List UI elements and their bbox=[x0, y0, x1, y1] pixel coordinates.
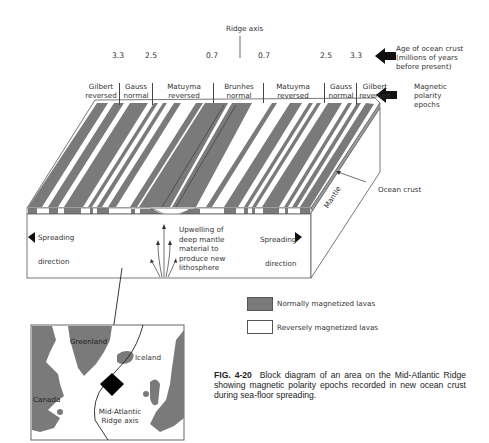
age-legend-arrow-icon bbox=[375, 48, 396, 64]
map-label-ridge-axis: Mid-Atlantic Ridge axis bbox=[90, 407, 150, 425]
epoch-divider bbox=[263, 83, 264, 103]
epoch-label-matuyma-left: Matuymareversed bbox=[155, 82, 213, 100]
legend-normal-label: Normally magnetized lavas bbox=[277, 299, 375, 308]
figure-number: FIG. 4-20 bbox=[214, 370, 252, 380]
map-label-greenland: Greenland bbox=[70, 337, 107, 346]
map-label-canada: Canada bbox=[33, 395, 60, 404]
spreading-right-label-1: Spreading bbox=[260, 235, 296, 244]
spreading-left-label-1: Spreading bbox=[38, 233, 74, 242]
epoch-label-gauss-left: Gaussnormal bbox=[120, 82, 152, 100]
upwelling-label: Upwelling of deep mantle material to pro… bbox=[179, 225, 225, 273]
age-left-1: 3.3 bbox=[112, 51, 124, 60]
age-left-3: 0.7 bbox=[206, 51, 218, 60]
epoch-label-brunhes: Brunhesnormal bbox=[214, 82, 264, 100]
age-right-3: 3.3 bbox=[350, 51, 362, 60]
ocean-crust-label: Ocean crust bbox=[378, 185, 421, 194]
epoch-label-gilbert-right: Gilbertreversed bbox=[357, 82, 393, 100]
legend-reverse-swatch bbox=[247, 320, 273, 334]
figure-caption: FIG. 4-20 Block diagram of an area on th… bbox=[214, 370, 466, 401]
age-right-1: 0.7 bbox=[258, 51, 270, 60]
age-right-2: 2.5 bbox=[320, 51, 332, 60]
block-front-face bbox=[27, 214, 311, 278]
epoch-divider bbox=[152, 83, 153, 105]
legend-normal-swatch bbox=[247, 297, 273, 311]
epoch-label-gilbert-left: Gilbertreversed bbox=[83, 82, 119, 100]
ridge-axis-label: Ridge axis bbox=[226, 24, 263, 33]
legend-reverse-label: Reversely magnetized lavas bbox=[277, 323, 378, 332]
epoch-label-gauss-right: Gaussnormal bbox=[325, 82, 357, 100]
map-label-iceland: Iceland bbox=[135, 353, 161, 362]
spreading-right-label-2: direction bbox=[265, 259, 297, 268]
age-legend: Age of ocean crust (millions of years be… bbox=[396, 44, 463, 71]
epoch-legend: Magnetic polarity epochs bbox=[414, 82, 447, 109]
spreading-left-label-2: direction bbox=[38, 257, 70, 266]
age-left-2: 2.5 bbox=[145, 51, 157, 60]
epoch-label-matuyma-right: Matuymareversed bbox=[268, 82, 318, 100]
figure-caption-text: Block diagram of an area on the Mid-Atla… bbox=[214, 370, 466, 400]
